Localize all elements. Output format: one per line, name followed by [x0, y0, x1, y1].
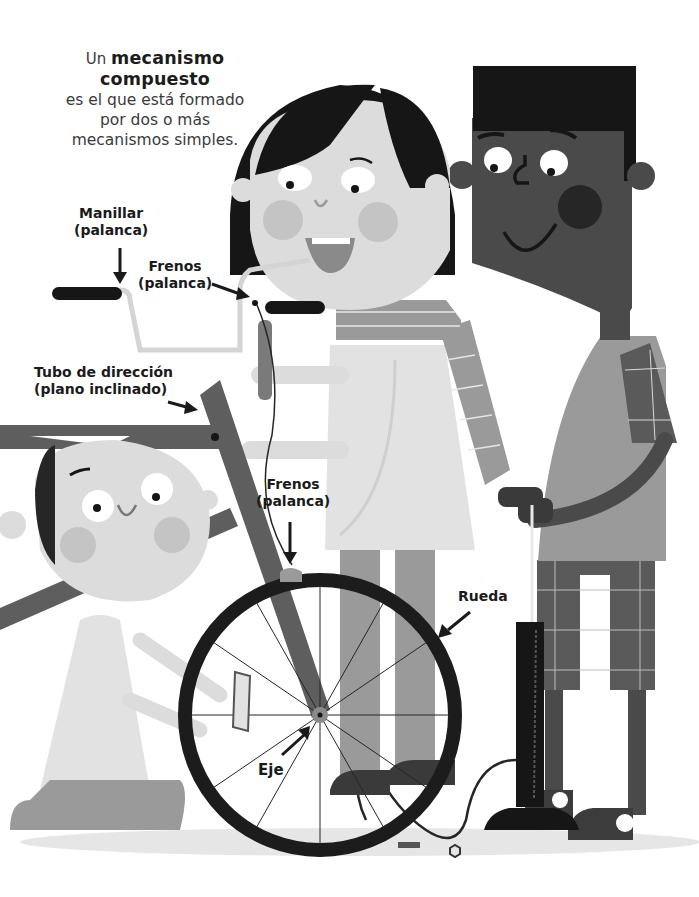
intro-lead: Un	[86, 50, 107, 68]
left-grip	[52, 287, 122, 300]
label-frenos-top-title: Frenos	[138, 258, 212, 275]
girl-figure	[230, 85, 510, 795]
label-tubo-direccion: Tubo de dirección (plano inclinado)	[34, 364, 173, 398]
label-frenos-bottom-type: (palanca)	[256, 493, 330, 510]
label-manillar-type: (palanca)	[74, 222, 148, 239]
intro-line-2: por dos o más	[30, 110, 280, 130]
intro-term: mecanismo compuesto	[100, 48, 224, 89]
label-frenos-bottom-title: Frenos	[256, 476, 330, 493]
arrow-frenos-top	[212, 284, 240, 294]
intro-text: Un mecanismo compuesto es el que está fo…	[30, 48, 280, 150]
intro-line-3: mecanismos simples.	[30, 130, 280, 150]
label-eje: Eje	[258, 762, 284, 779]
label-eje-title: Eje	[258, 762, 284, 779]
arrow-eje	[282, 735, 304, 755]
label-tubo-title: Tubo de dirección	[34, 364, 173, 381]
intro-line-1: es el que está formado	[30, 90, 280, 110]
label-rueda-title: Rueda	[458, 588, 508, 605]
right-grip	[265, 301, 325, 314]
label-frenos-top-type: (palanca)	[138, 275, 212, 292]
screw-icon	[398, 842, 420, 848]
label-frenos-top: Frenos (palanca)	[138, 258, 212, 292]
book-page: Un mecanismo compuesto es el que está fo…	[0, 0, 699, 897]
arrow-rueda	[448, 612, 470, 630]
label-manillar: Manillar (palanca)	[74, 205, 148, 239]
kneeling-child-figure	[0, 440, 220, 830]
label-manillar-title: Manillar	[74, 205, 148, 222]
label-frenos-bottom: Frenos (palanca)	[256, 476, 330, 510]
label-rueda: Rueda	[458, 588, 508, 605]
label-tubo-type: (plano inclinado)	[34, 381, 173, 398]
